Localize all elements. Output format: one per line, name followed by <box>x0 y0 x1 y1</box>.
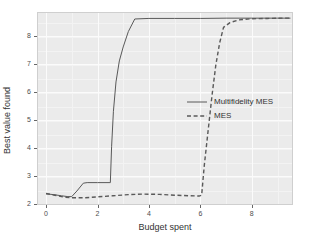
x-tick-mark <box>252 205 253 208</box>
y-tick-label: 3 <box>17 172 31 180</box>
chart-figure: 02468 2345678 Budget spent Best value fo… <box>0 0 310 242</box>
x-tick-mark <box>46 205 47 208</box>
y-tick-mark <box>34 64 37 65</box>
x-tick-mark <box>98 205 99 208</box>
y-tick-label: 5 <box>17 116 31 124</box>
y-tick-mark <box>34 120 37 121</box>
y-tick-label: 4 <box>17 144 31 152</box>
legend-label-multifidelity-mes: Multifidelity MES <box>214 97 273 107</box>
x-tick-label: 4 <box>139 210 159 218</box>
chart-legend: Multifidelity MES MES <box>186 97 273 121</box>
x-axis-label: Budget spent <box>37 222 293 232</box>
x-tick-label: 2 <box>88 210 108 218</box>
legend-key-solid-line-icon <box>186 97 208 107</box>
x-tick-mark <box>200 205 201 208</box>
legend-key-dashed-line-icon <box>186 111 208 121</box>
x-tick-label: 8 <box>242 210 262 218</box>
y-tick-label: 2 <box>17 200 31 208</box>
y-tick-mark <box>34 92 37 93</box>
y-tick-mark <box>34 148 37 149</box>
legend-label-mes: MES <box>214 111 231 121</box>
x-tick-mark <box>149 205 150 208</box>
x-tick-label: 0 <box>36 210 56 218</box>
y-tick-label: 8 <box>17 32 31 40</box>
legend-item-mes: MES <box>186 111 273 121</box>
y-tick-label: 6 <box>17 88 31 96</box>
y-tick-label: 7 <box>17 60 31 68</box>
y-axis-label: Best value found <box>2 24 14 217</box>
y-tick-mark <box>34 176 37 177</box>
x-tick-label: 6 <box>190 210 210 218</box>
legend-item-multifidelity-mes: Multifidelity MES <box>186 97 273 107</box>
y-tick-mark <box>34 36 37 37</box>
y-tick-mark <box>34 204 37 205</box>
